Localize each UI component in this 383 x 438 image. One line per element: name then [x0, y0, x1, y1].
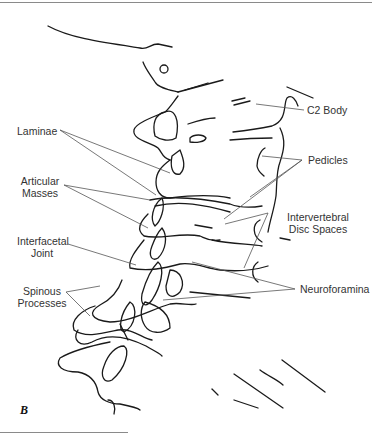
label-intervertebral-disc-spaces: Intervertebral Disc Spaces	[280, 211, 356, 235]
label-spinous-line1: Spinous	[17, 285, 67, 297]
label-pedicles: Pedicles	[308, 154, 348, 166]
label-interfacetal-joint: Interfacetal Joint	[17, 235, 67, 259]
label-articular-line1: Articular	[17, 175, 63, 187]
label-articular-line2: Masses	[17, 187, 63, 199]
label-neuroforamina: Neuroforamina	[300, 283, 369, 295]
label-interfacetal-line1: Interfacetal	[17, 235, 67, 247]
label-intervertebral-line1: Intervertebral	[280, 211, 356, 223]
label-interfacetal-line2: Joint	[17, 247, 67, 259]
label-spinous-line2: Processes	[17, 297, 67, 309]
label-spinous-processes: Spinous Processes	[17, 285, 67, 309]
bottom-rule	[0, 432, 128, 433]
label-articular-masses: Articular Masses	[17, 175, 63, 199]
label-intervertebral-line2: Disc Spaces	[280, 223, 356, 235]
panel-label: B	[20, 403, 28, 418]
label-c2-body: C2 Body	[307, 104, 347, 116]
label-laminae: Laminae	[17, 125, 57, 137]
